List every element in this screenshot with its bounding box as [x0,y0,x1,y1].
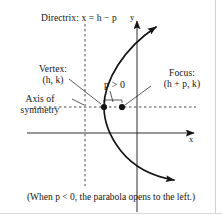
vertex-label: Vertex: (h, k) [27,64,79,86]
focus-point [119,104,125,110]
parabola-lower-branch [104,107,174,180]
focus-label-name: Focus: [169,68,195,78]
focus-label: Focus: (h + p, k) [152,68,212,90]
directrix-label: Directrix: x = h − p [41,13,117,24]
p-condition-label: p > 0 [104,79,125,90]
focus-leader-line [125,86,151,105]
axis-of-symmetry-leader-line [72,99,84,105]
frame-right-border [215,0,216,214]
vertex-label-point: (h, k) [42,75,63,85]
axis-of-symmetry-label-line1: Axis of [26,94,55,104]
frame-bottom-border [0,213,222,214]
parabola-upper-branch [104,27,156,107]
focus-label-point: (h + p, k) [164,79,200,89]
figure-caption: (When p < 0, the parabola opens to the l… [0,192,222,202]
x-axis-label: x [189,134,193,145]
vertex-point [101,104,107,110]
axis-of-symmetry-label-line2: symmetry [21,105,60,115]
vertex-label-name: Vertex: [39,64,67,74]
axis-of-symmetry-label: Axis of symmetry [9,94,71,116]
y-axis-label: y [130,12,134,23]
parabola-figure: Directrix: x = h − p Vertex: (h, k) Axis… [0,0,222,220]
